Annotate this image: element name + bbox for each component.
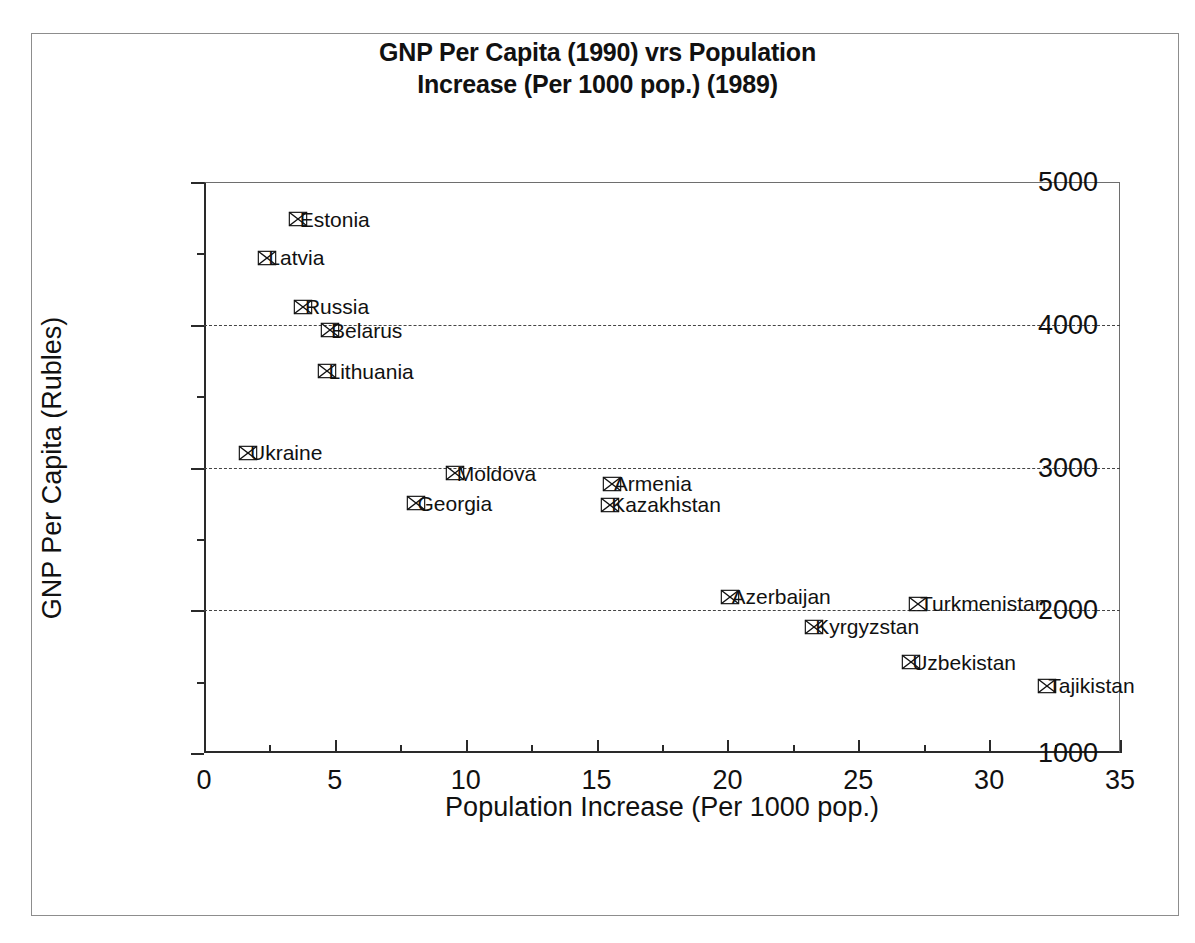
x-tick-5 — [335, 740, 337, 753]
data-point-armenia[interactable]: Armenia — [603, 476, 622, 491]
data-point-tajikistan[interactable]: Tajikistan — [1037, 678, 1056, 693]
data-point-belarus[interactable]: Belarus — [320, 323, 339, 338]
y-tick-label-3000: 3000 — [1038, 452, 1098, 483]
plot-area: 10002000300040005000 05101520253035 Esto… — [204, 182, 1120, 753]
data-point-label-tajikistan: Tajikistan — [1048, 675, 1134, 696]
data-point-azerbaijan[interactable]: Azerbaijan — [721, 589, 740, 604]
y-tick-1000 — [191, 753, 204, 755]
y-tick-label-5000: 5000 — [1038, 167, 1098, 198]
data-point-lithuania[interactable]: Lithuania — [318, 364, 337, 379]
data-point-latvia[interactable]: Latvia — [257, 250, 276, 265]
y-tick-5000 — [191, 182, 204, 184]
data-point-russia[interactable]: Russia — [294, 299, 313, 314]
data-point-label-kazakhstan: Kazakhstan — [611, 494, 721, 515]
x-tick-10 — [466, 740, 468, 753]
data-point-label-lithuania: Lithuania — [329, 361, 414, 382]
y-tick-label-4000: 4000 — [1038, 309, 1098, 340]
data-point-moldova[interactable]: Moldova — [446, 466, 465, 481]
data-point-label-armenia: Armenia — [614, 473, 692, 494]
data-point-label-kyrgyzstan: Kyrgyzstan — [815, 616, 919, 637]
chart-title: GNP Per Capita (1990) vrs Population Inc… — [0, 36, 1195, 100]
y-tick-label-1000: 1000 — [1038, 738, 1098, 769]
gridline-y-3000 — [204, 468, 1120, 469]
y-tick-minor-3500 — [197, 396, 204, 398]
x-tick-label-5: 5 — [327, 765, 342, 796]
x-tick-minor-27.5 — [924, 745, 926, 753]
y-tick-4000 — [191, 325, 204, 327]
data-point-label-azerbaijan: Azerbaijan — [732, 586, 831, 607]
data-point-label-georgia: Georgia — [417, 493, 492, 514]
x-tick-20 — [727, 740, 729, 753]
data-point-label-belarus: Belarus — [331, 320, 402, 341]
x-tick-label-20: 20 — [712, 765, 742, 796]
data-point-label-turkmenistan: Turkmenistan — [920, 593, 1046, 614]
x-tick-35 — [1120, 740, 1122, 753]
x-tick-0 — [204, 740, 206, 753]
data-point-kyrgyzstan[interactable]: Kyrgyzstan — [804, 619, 823, 634]
data-point-label-estonia: Estonia — [300, 209, 370, 230]
x-tick-label-25: 25 — [843, 765, 873, 796]
data-point-label-moldova: Moldova — [457, 463, 536, 484]
data-point-label-latvia: Latvia — [268, 247, 324, 268]
x-tick-minor-17.5 — [662, 745, 664, 753]
x-tick-25 — [858, 740, 860, 753]
data-point-label-russia: Russia — [305, 296, 369, 317]
y-tick-3000 — [191, 468, 204, 470]
x-tick-30 — [989, 740, 991, 753]
x-axis-title: Population Increase (Per 1000 pop.) — [204, 792, 1120, 823]
x-tick-label-10: 10 — [451, 765, 481, 796]
y-tick-minor-4500 — [197, 253, 204, 255]
x-tick-label-15: 15 — [582, 765, 612, 796]
x-tick-label-30: 30 — [974, 765, 1004, 796]
x-tick-minor-12.5 — [531, 745, 533, 753]
y-tick-minor-1500 — [197, 682, 204, 684]
data-point-turkmenistan[interactable]: Turkmenistan — [909, 596, 928, 611]
x-tick-label-35: 35 — [1105, 765, 1135, 796]
data-point-estonia[interactable]: Estonia — [289, 212, 308, 227]
data-point-label-uzbekistan: Uzbekistan — [912, 652, 1016, 673]
x-tick-label-0: 0 — [196, 765, 211, 796]
y-axis-title: GNP Per Capita (Rubles) — [37, 317, 68, 620]
data-point-label-ukraine: Ukraine — [250, 442, 322, 463]
x-tick-minor-2.5 — [269, 745, 271, 753]
y-tick-label-2000: 2000 — [1038, 595, 1098, 626]
data-point-georgia[interactable]: Georgia — [406, 496, 425, 511]
data-point-ukraine[interactable]: Ukraine — [239, 445, 258, 460]
data-point-kazakhstan[interactable]: Kazakhstan — [600, 497, 619, 512]
y-tick-minor-2500 — [197, 539, 204, 541]
chart-title-line-2: Increase (Per 1000 pop.) (1989) — [0, 68, 1195, 100]
chart-title-line-1: GNP Per Capita (1990) vrs Population — [0, 36, 1195, 68]
x-tick-minor-7.5 — [400, 745, 402, 753]
y-tick-2000 — [191, 610, 204, 612]
x-tick-minor-22.5 — [793, 745, 795, 753]
data-point-uzbekistan[interactable]: Uzbekistan — [901, 655, 920, 670]
x-tick-15 — [597, 740, 599, 753]
chart-page: GNP Per Capita (1990) vrs Population Inc… — [0, 0, 1195, 943]
